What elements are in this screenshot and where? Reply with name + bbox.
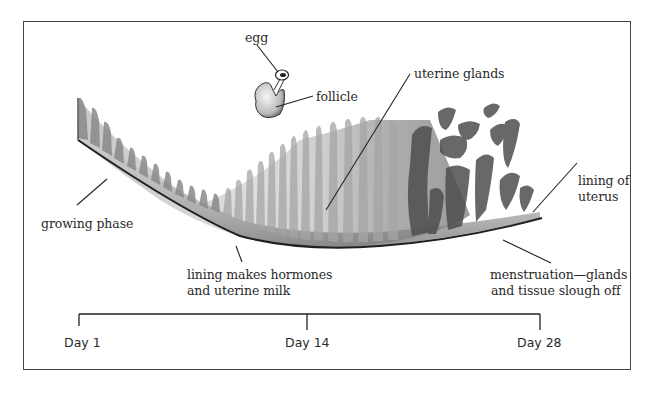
menstruation-label-line2: and tissue slough off — [491, 283, 620, 299]
timeline-tick-day-28: Day 28 — [517, 335, 562, 350]
lining-hormones-leader — [236, 246, 242, 262]
lining-of-uterus-leader — [533, 163, 577, 212]
egg-leader — [257, 45, 278, 72]
growing-phase-label: growing phase — [41, 216, 133, 232]
egg-label: egg — [245, 30, 268, 46]
menstruation-leader — [503, 240, 551, 263]
lining-of-uterus-label-line2: uterus — [578, 189, 618, 205]
follicle-illustration — [255, 79, 285, 118]
growing-phase-leader — [77, 179, 107, 205]
follicle-label: follicle — [316, 89, 358, 105]
lining-hormones-label-line1: lining makes hormones — [187, 267, 332, 283]
lining-hormones-label-line2: and uterine milk — [187, 283, 290, 299]
timeline-tick-day-14: Day 14 — [285, 335, 330, 350]
timeline — [79, 314, 540, 330]
uterine-glands-label: uterine glands — [414, 66, 504, 82]
timeline-tick-day-1: Day 1 — [64, 335, 101, 350]
lining-of-uterus-label-line1: lining of — [578, 173, 629, 189]
menstruation-label-line1: menstruation—glands — [490, 267, 627, 283]
